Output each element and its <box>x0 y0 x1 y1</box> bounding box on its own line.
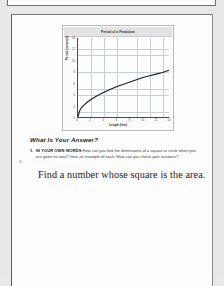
y-tick-label: 6 <box>69 82 75 85</box>
question-text: IN YOUR OWN WORDS How can you find the d… <box>36 148 196 160</box>
pendulum-curve <box>78 38 169 117</box>
question-number: 1. <box>30 148 33 160</box>
margin-speck-icon <box>19 160 22 163</box>
y-tick-label: 2 <box>69 105 75 108</box>
question-lead-in: IN YOUR OWN WORDS <box>36 148 82 153</box>
chart-title: Period of a Pendulum <box>101 30 135 34</box>
y-tick-label: 8 <box>69 71 75 74</box>
x-tick-label: 10 <box>140 119 146 122</box>
pendulum-chart: Period of a Pendulum Period (seconds) 0 … <box>62 25 174 131</box>
chart-title-bar: Period of a Pendulum <box>64 27 172 37</box>
x-tick-label: 12 <box>153 119 159 122</box>
x-tick-label: 6 <box>113 119 119 122</box>
previous-page-sliver <box>7 0 216 6</box>
x-tick-label: 0 <box>74 119 80 122</box>
y-tick-label: 4 <box>69 94 75 97</box>
y-tick-label: 12 <box>69 48 75 51</box>
x-tick-label: 14 <box>166 119 172 122</box>
y-tick-label: 14 <box>69 37 75 40</box>
chart-plot-area <box>77 38 169 118</box>
x-tick-label: 8 <box>127 119 133 122</box>
chart-x-axis-label: Length (feet) <box>63 123 173 127</box>
question-row: 1. IN YOUR OWN WORDS How can you find th… <box>30 148 196 160</box>
section-heading: What Is Your Answer? <box>30 136 98 143</box>
workbook-page: Period of a Pendulum Period (seconds) 0 … <box>11 14 213 286</box>
x-tick-label: 2 <box>87 119 93 122</box>
y-tick-label: 10 <box>69 59 75 62</box>
handwritten-answer: Find a number whose square is the area. <box>38 169 202 180</box>
x-tick-label: 4 <box>100 119 106 122</box>
